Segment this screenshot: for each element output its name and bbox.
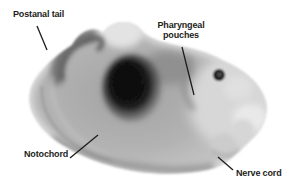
pharyngeal-pouches-leader-line <box>182 47 194 95</box>
notochord-leader-line <box>70 135 98 158</box>
postanal-tail-leader-line <box>37 26 47 50</box>
leader-lines-layer <box>0 0 293 189</box>
figure-canvas: Postanal tail Pharyngeal pouches Notocho… <box>0 0 293 189</box>
label-nerve-cord: Nerve cord <box>236 168 282 178</box>
nerve-cord-leader-line <box>218 157 233 170</box>
label-pharyngeal-pouches: Pharyngeal pouches <box>150 20 212 40</box>
label-notochord: Notochord <box>24 149 68 159</box>
label-postanal-tail: Postanal tail <box>13 9 64 19</box>
